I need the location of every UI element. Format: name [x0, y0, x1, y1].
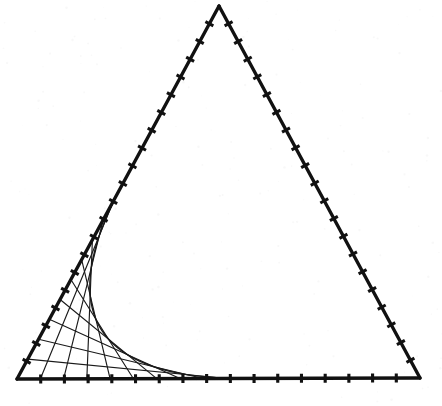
grain-speck — [233, 157, 235, 159]
left-edge — [17, 6, 219, 379]
left-edge-tick-5 — [61, 288, 69, 292]
grain-speck — [64, 346, 65, 347]
grain-speck — [197, 59, 199, 61]
grain-speck — [109, 232, 110, 233]
right-edge-tick-7 — [282, 128, 290, 132]
grain-speck — [76, 358, 77, 359]
left-edge-tick-17 — [177, 75, 185, 79]
grain-speck — [283, 166, 285, 168]
grain-speck — [190, 304, 191, 305]
grain-speck — [219, 195, 221, 197]
grain-speck — [379, 254, 381, 256]
left-edge-tick-10 — [109, 199, 117, 203]
left-edge-tick-6 — [71, 270, 79, 274]
grain-speck — [242, 285, 243, 286]
grain-speck — [197, 339, 198, 340]
grain-speck — [111, 274, 112, 275]
grain-speck — [201, 95, 202, 96]
grain-speck — [288, 39, 289, 40]
grain-speck — [416, 355, 418, 357]
grain-speck — [309, 345, 311, 347]
grain-speck — [404, 372, 405, 373]
grain-speck — [382, 150, 383, 151]
grain-speck — [422, 388, 424, 390]
grain-speck — [49, 53, 51, 55]
right-edge-tick-11 — [320, 199, 328, 203]
grain-speck — [248, 45, 250, 47]
bottom-edge — [17, 378, 420, 379]
grain-speck — [146, 6, 147, 7]
grain-speck — [149, 71, 150, 72]
right-edge-tick-3 — [244, 57, 252, 61]
right-edge-tick-20 — [406, 358, 414, 362]
grain-speck — [4, 22, 6, 24]
grain-speck — [37, 99, 39, 101]
grain-speck — [114, 208, 116, 210]
grain-speck — [28, 402, 29, 403]
grain-speck — [362, 117, 364, 119]
grain-speck — [110, 233, 111, 234]
grain-speck — [173, 302, 174, 303]
grain-speck — [125, 232, 126, 233]
grain-speck — [87, 43, 89, 45]
grain-speck — [398, 24, 399, 25]
grain-speck — [403, 173, 405, 175]
right-edge-tick-12 — [330, 216, 338, 220]
grain-speck — [177, 39, 179, 41]
grain-speck — [120, 47, 122, 49]
grain-speck — [432, 16, 433, 17]
right-edge-tick-6 — [272, 110, 280, 114]
grain-speck — [10, 181, 11, 182]
grain-speck — [149, 255, 151, 257]
left-edge-tick-20 — [205, 22, 213, 26]
grain-speck — [96, 63, 98, 65]
grain-speck — [42, 91, 44, 93]
right-edge-tick-9 — [301, 163, 309, 167]
grain-speck — [157, 286, 160, 289]
grain-speck — [52, 105, 54, 107]
grain-speck — [151, 288, 153, 290]
grain-speck — [292, 221, 294, 223]
grain-speck — [101, 336, 103, 338]
grain-speck — [197, 145, 200, 148]
grain-speck — [327, 330, 328, 331]
grain-speck — [259, 193, 261, 195]
grain-speck — [22, 125, 23, 126]
grain-speck — [25, 189, 26, 190]
grain-speck — [427, 386, 429, 388]
grain-speck — [426, 160, 428, 162]
envelope-curve — [90, 200, 227, 379]
grain-speck — [193, 252, 195, 254]
grain-speck — [151, 154, 153, 156]
left-edge-tick-19 — [196, 39, 204, 43]
grain-speck — [248, 338, 250, 340]
grain-speck — [224, 362, 225, 363]
grain-speck — [246, 31, 248, 33]
grain-speck — [278, 262, 280, 264]
grain-speck — [175, 126, 177, 128]
grain-speck — [206, 107, 207, 108]
right-edge-tick-4 — [253, 75, 261, 79]
grain-speck — [28, 194, 29, 195]
right-edge-tick-8 — [292, 146, 300, 150]
grain-speck — [222, 194, 224, 196]
grain-speck — [182, 81, 185, 84]
envelope-curve-group — [90, 200, 227, 379]
grain-speck — [68, 217, 70, 219]
grain-speck — [317, 280, 319, 282]
grain-speck — [295, 141, 296, 142]
grain-speck — [78, 299, 81, 302]
grain-speck — [83, 92, 85, 94]
grain-speck — [135, 224, 137, 226]
left-edge-tick-4 — [52, 306, 60, 310]
grain-speck — [34, 31, 36, 33]
grain-speck — [291, 113, 292, 114]
grain-speck — [62, 139, 63, 140]
grain-speck — [76, 308, 78, 310]
grain-speck — [100, 266, 101, 267]
right-edge-tick-10 — [311, 181, 319, 185]
stitch-line-group — [28, 200, 227, 379]
grain-speck — [46, 124, 48, 126]
grain-speck — [165, 344, 167, 346]
grain-speck — [157, 213, 159, 215]
